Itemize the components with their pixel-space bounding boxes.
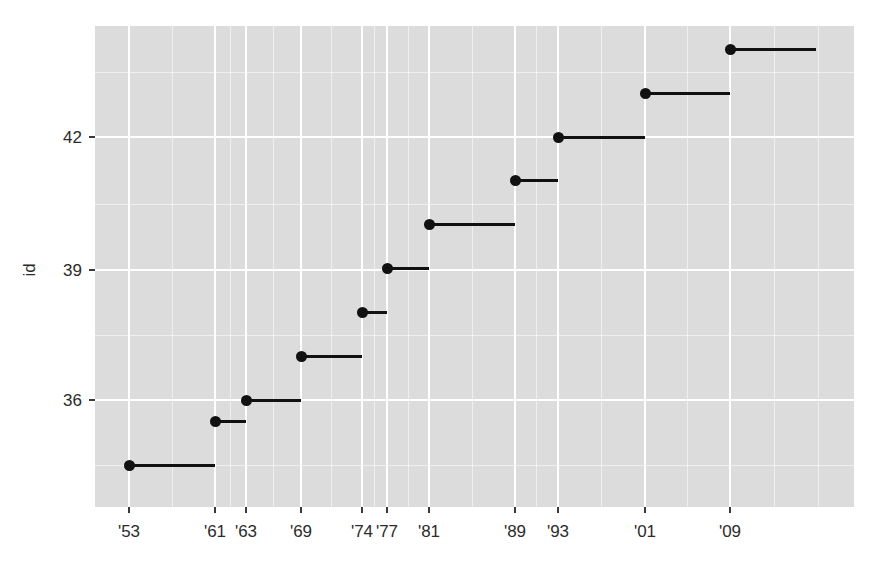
gridline-vertical-major <box>361 26 363 507</box>
step-segment <box>515 179 558 182</box>
data-point <box>124 460 135 471</box>
x-tick-mark <box>557 507 559 513</box>
x-tick-mark <box>729 507 731 513</box>
gridline-vertical-minor <box>230 26 231 507</box>
data-point <box>510 175 521 186</box>
data-point <box>382 263 393 274</box>
gridline-vertical-minor <box>331 26 332 507</box>
gridline-vertical-minor <box>472 26 473 507</box>
plot-panel <box>95 26 854 507</box>
y-tick-label: 36 <box>0 392 82 409</box>
data-point <box>296 351 307 362</box>
step-segment <box>558 136 645 139</box>
x-tick-label: '09 <box>719 523 741 540</box>
gridline-vertical-major <box>300 26 302 507</box>
data-point <box>725 44 736 55</box>
x-tick-mark <box>245 507 247 513</box>
step-segment <box>129 464 215 467</box>
y-tick-label: 39 <box>0 262 82 279</box>
gridline-vertical-major <box>214 26 216 507</box>
x-tick-label: '61 <box>204 523 226 540</box>
x-tick-label: '63 <box>235 523 257 540</box>
x-tick-mark <box>386 507 388 513</box>
gridline-vertical-minor <box>172 26 173 507</box>
gridline-vertical-minor <box>273 26 274 507</box>
gridline-vertical-minor <box>818 26 819 507</box>
x-tick-mark <box>300 507 302 513</box>
step-segment <box>387 267 429 270</box>
gridline-vertical-major <box>729 26 731 507</box>
x-tick-mark <box>514 507 516 513</box>
x-tick-label: '93 <box>547 523 569 540</box>
x-tick-label: '01 <box>634 523 656 540</box>
x-tick-label: '74 <box>351 523 373 540</box>
x-tick-mark <box>214 507 216 513</box>
gridline-vertical-major <box>514 26 516 507</box>
gridline-vertical-minor <box>774 26 775 507</box>
step-segment <box>246 399 301 402</box>
x-tick-label: '81 <box>418 523 440 540</box>
y-tick-mark <box>89 399 95 401</box>
step-segment <box>730 48 816 51</box>
gridline-vertical-major <box>128 26 130 507</box>
gridline-horizontal-major <box>95 399 854 401</box>
data-point <box>424 219 435 230</box>
y-tick-mark <box>89 136 95 138</box>
y-tick-label: 42 <box>0 129 82 146</box>
x-tick-mark <box>361 507 363 513</box>
gridline-vertical-minor <box>687 26 688 507</box>
gridline-horizontal-minor <box>95 72 854 73</box>
chart-figure: 363942 '53'61'63'69'74'77'81'89'93'01'09… <box>0 0 892 566</box>
data-point <box>357 307 368 318</box>
step-segment <box>429 223 515 226</box>
gridline-horizontal-minor <box>95 204 854 205</box>
gridline-vertical-minor <box>601 26 602 507</box>
x-tick-label: '77 <box>376 523 398 540</box>
y-axis-title: id <box>20 263 40 276</box>
x-tick-mark <box>644 507 646 513</box>
gridline-vertical-major <box>245 26 247 507</box>
data-point <box>241 395 252 406</box>
gridline-horizontal-major <box>95 269 854 271</box>
gridline-vertical-minor <box>536 26 537 507</box>
x-tick-label: '69 <box>290 523 312 540</box>
x-tick-mark <box>428 507 430 513</box>
gridline-horizontal-major <box>95 136 854 138</box>
x-tick-label: '53 <box>118 523 140 540</box>
data-point <box>553 132 564 143</box>
y-tick-mark <box>89 269 95 271</box>
gridline-vertical-minor <box>374 26 375 507</box>
step-segment <box>645 92 730 95</box>
step-segment <box>301 355 362 358</box>
x-tick-label: '89 <box>504 523 526 540</box>
data-point <box>210 416 221 427</box>
gridline-vertical-major <box>557 26 559 507</box>
x-tick-mark <box>128 507 130 513</box>
data-point <box>640 88 651 99</box>
gridline-horizontal-minor <box>95 335 854 336</box>
